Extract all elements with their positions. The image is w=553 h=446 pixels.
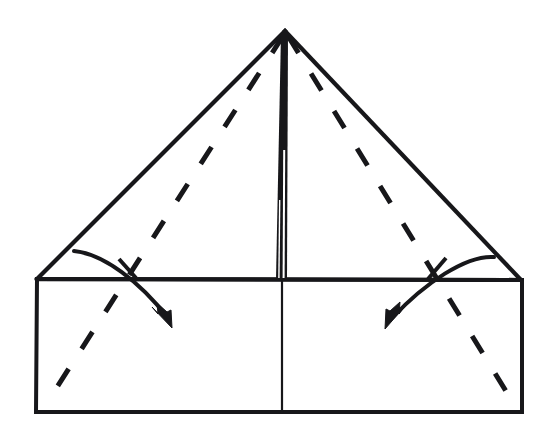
origami-diagram-root [0,0,553,446]
origami-figure-svg [0,0,553,446]
horizontal-fold-edge [37,279,521,280]
